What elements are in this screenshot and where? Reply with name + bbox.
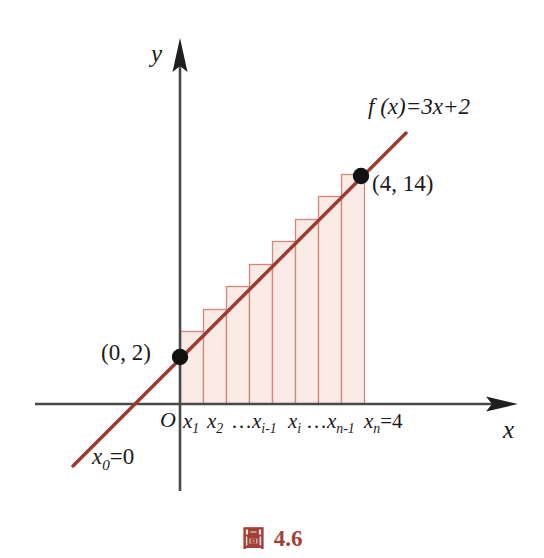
tick-xn-minus-1-subscript: n-1: [336, 421, 354, 436]
tick-xn-suffix: =4: [380, 409, 402, 433]
point-marker-4-14: [353, 168, 369, 184]
tick-label-x0: x0=0: [92, 445, 134, 472]
function-label: f (x)=3x+2: [368, 95, 470, 118]
origin-label: O: [160, 409, 176, 431]
tick-label-ellipsis-2: …: [306, 409, 328, 434]
tick-label-xn-minus-1: xn-1: [327, 409, 355, 437]
tick-xn-base: x: [364, 409, 373, 433]
tick-label-xi: xi: [288, 409, 301, 437]
riemann-sum-plot: [0, 0, 544, 558]
point-label-4-14: (4, 14): [372, 172, 433, 195]
tick-xi-subscript: i: [297, 421, 301, 436]
point-label-0-2: (0, 2): [101, 341, 151, 364]
tick-label-xi-minus-1: xi-1: [252, 409, 277, 437]
tick-x1-base: x: [183, 409, 192, 433]
tick-x1-subscript: 1: [192, 421, 199, 436]
tick-xi-minus-1-subscript: i-1: [261, 421, 276, 436]
riemann-rectangle-8: [342, 175, 365, 405]
tick-xn-minus-1-base: x: [327, 409, 336, 433]
riemann-rectangles: [181, 175, 365, 405]
tick-label-xn: xn=4: [364, 409, 403, 437]
riemann-rectangle-7: [319, 197, 342, 405]
y-axis-label: y: [151, 41, 162, 66]
tick-x2-base: x: [207, 409, 216, 433]
figure-container: y x O f (x)=3x+2 (4, 14) (0, 2) x0=0 x1 …: [0, 0, 544, 558]
figure-caption: 圖4.6: [0, 519, 544, 553]
tick-x0-suffix: =0: [110, 444, 134, 469]
tick-xi-base: x: [288, 409, 297, 433]
tick-label-ellipsis-1: …: [231, 409, 253, 434]
tick-x2-subscript: 2: [216, 421, 223, 436]
tick-label-x1: x1: [183, 409, 199, 437]
riemann-rectangle-3: [227, 287, 250, 405]
tick-label-x2: x2: [207, 409, 223, 437]
point-marker-0-2: [172, 349, 188, 365]
tick-x0-base: x: [92, 444, 102, 469]
tick-xi-minus-1-base: x: [252, 409, 261, 433]
riemann-rectangle-1: [181, 332, 204, 405]
x-axis-label: x: [503, 417, 514, 442]
figure-caption-number: 4.6: [274, 526, 303, 551]
riemann-rectangle-6: [296, 220, 319, 405]
riemann-rectangle-5: [273, 242, 296, 405]
tick-x0-subscript: 0: [102, 456, 110, 473]
figure-caption-label: 圖: [242, 526, 265, 551]
